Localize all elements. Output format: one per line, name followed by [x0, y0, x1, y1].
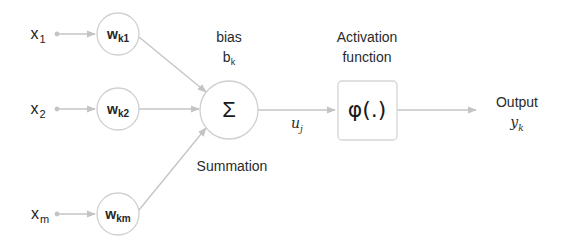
input-edges — [55, 32, 95, 217]
summation-caption: Summation — [197, 159, 268, 173]
weight-label-wkm: wkm — [105, 207, 130, 221]
sigma-icon: Σ — [222, 99, 236, 121]
intermediate-subscript: j — [300, 124, 303, 134]
input-label-x2: x2 — [30, 101, 45, 117]
output-subscript: k — [518, 123, 523, 133]
weight-subscript: k2 — [118, 108, 129, 119]
weight-label-wk1: wk1 — [107, 27, 129, 41]
output-symbol: yk — [510, 115, 523, 129]
diagram-canvas — [0, 0, 570, 251]
intermediate-label: uj — [291, 116, 303, 130]
output-symbol-base: y — [510, 114, 518, 130]
edge-wk1-sum — [139, 37, 206, 92]
input-label-xm: xm — [31, 206, 49, 222]
weight-label-wk2: wk2 — [107, 102, 129, 116]
bias-subscript: k — [231, 57, 236, 67]
phi-function-icon: φ(.) — [348, 99, 387, 121]
neuron-diagram: x1 x2 xm wk1 wk2 wkm bias bk Σ Summation… — [0, 0, 570, 251]
weight-subscript: km — [116, 213, 130, 224]
activation-caption-line2: function — [342, 50, 391, 64]
input-label-x1: x1 — [30, 26, 45, 42]
weight-subscript: k1 — [118, 33, 129, 44]
output-caption: Output — [496, 95, 538, 109]
input-subscript: 1 — [39, 33, 45, 45]
intermediate-symbol: u — [291, 115, 300, 131]
input-subscript: 2 — [39, 108, 45, 120]
activation-caption-line1: Activation — [337, 30, 398, 44]
bias-symbol-base: b — [223, 49, 231, 65]
bias-symbol: bk — [223, 50, 235, 64]
input-symbol: x — [30, 25, 38, 42]
bias-caption: bias — [216, 30, 242, 44]
weight-symbol: w — [107, 26, 118, 42]
input-subscript: m — [40, 213, 49, 225]
weight-symbol: w — [105, 206, 116, 222]
weight-edges — [139, 37, 206, 210]
input-symbol: x — [31, 205, 39, 222]
weight-symbol: w — [107, 101, 118, 117]
input-symbol: x — [30, 100, 38, 117]
